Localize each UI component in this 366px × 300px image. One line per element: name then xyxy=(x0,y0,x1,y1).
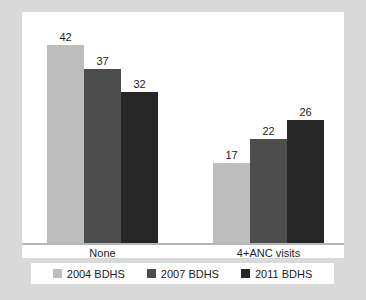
chart-legend: 2004 BDHS 2007 BDHS 2011 BDHS xyxy=(31,263,334,284)
bar-value-none-2004: 42 xyxy=(47,31,84,44)
bar-anc-2007 xyxy=(250,139,287,243)
plot-area: 42 37 32 17 22 26 xyxy=(22,12,344,244)
legend-label-2004: 2004 BDHS xyxy=(67,268,125,280)
bar-anc-2011 xyxy=(287,120,324,243)
legend-swatch-icon-2011 xyxy=(241,269,250,278)
bar-none-2007 xyxy=(84,69,121,243)
chart-plot-card: 42 37 32 17 22 26 None 4+ANC visits xyxy=(22,12,344,258)
bar-chart-figure: 42 37 32 17 22 26 None 4+ANC visits 2004… xyxy=(0,0,366,300)
x-axis-label-anc: 4+ANC visits xyxy=(213,246,324,260)
bar-value-none-2007: 37 xyxy=(84,55,121,68)
bar-value-none-2011: 32 xyxy=(121,78,158,91)
bar-anc-2004 xyxy=(213,163,250,243)
bar-value-anc-2004: 17 xyxy=(213,149,250,162)
legend-label-2007: 2007 BDHS xyxy=(161,268,219,280)
bar-value-anc-2011: 26 xyxy=(287,106,324,119)
bar-group-4plus-anc-visits: 17 22 26 xyxy=(213,12,324,243)
legend-item-2004: 2004 BDHS xyxy=(53,268,125,280)
legend-swatch-icon-2007 xyxy=(147,269,156,278)
bar-none-2004 xyxy=(47,45,84,243)
bar-value-anc-2007: 22 xyxy=(250,125,287,138)
legend-swatch-icon-2004 xyxy=(53,269,62,278)
legend-item-2007: 2007 BDHS xyxy=(147,268,219,280)
bar-group-none: 42 37 32 xyxy=(47,12,158,243)
x-axis-labels: None 4+ANC visits xyxy=(22,245,344,261)
bar-none-2011 xyxy=(121,92,158,243)
legend-label-2011: 2011 BDHS xyxy=(255,268,312,280)
x-axis-label-none: None xyxy=(47,246,158,260)
legend-item-2011: 2011 BDHS xyxy=(241,268,312,280)
